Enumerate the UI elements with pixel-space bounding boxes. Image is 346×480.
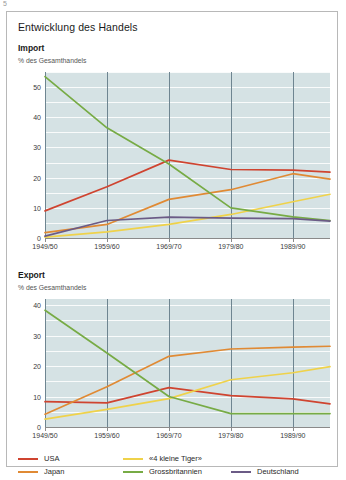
section-label-import: Import xyxy=(18,43,44,53)
series-layer xyxy=(7,66,339,256)
legend-item-usa[interactable]: USA xyxy=(18,454,59,463)
page-number: 5 xyxy=(3,0,6,7)
legend-item-japan[interactable]: Japan xyxy=(18,467,64,476)
legend-label: USA xyxy=(44,454,59,463)
axis-caption-export: % des Gesamthandels xyxy=(18,284,86,291)
legend-swatch-icon xyxy=(231,471,251,473)
legend: USAJapan«4 kleine Tiger»GrossbritannienD… xyxy=(18,452,330,480)
legend-item--4-kleine-tiger-[interactable]: «4 kleine Tiger» xyxy=(123,454,202,463)
legend-item-grossbritannien[interactable]: Grossbritannien xyxy=(123,467,202,476)
legend-swatch-icon xyxy=(123,471,143,473)
legend-swatch-icon xyxy=(18,471,38,473)
series-layer xyxy=(7,293,339,445)
chart-import: 010203040501949/501959/601969/701979/801… xyxy=(7,66,339,256)
page-title: Entwicklung des Handels xyxy=(18,21,138,33)
legend-swatch-icon xyxy=(18,458,38,460)
legend-label: Deutschland xyxy=(257,467,299,476)
legend-label: «4 kleine Tiger» xyxy=(149,454,202,463)
legend-label: Japan xyxy=(44,467,64,476)
chart-card: Entwicklung des Handels Import % des Ges… xyxy=(6,11,338,467)
axis-caption-import: % des Gesamthandels xyxy=(18,57,86,64)
series-line--4-kleine-tiger- xyxy=(45,367,330,419)
legend-item-deutschland[interactable]: Deutschland xyxy=(231,467,299,476)
legend-swatch-icon xyxy=(123,458,143,460)
series-line-grossbritannien xyxy=(45,77,330,221)
legend-label: Grossbritannien xyxy=(149,467,202,476)
series-line-japan xyxy=(45,346,330,414)
section-label-export: Export xyxy=(18,270,45,280)
chart-export: 0102030401949/501959/601969/701979/80198… xyxy=(7,293,339,445)
